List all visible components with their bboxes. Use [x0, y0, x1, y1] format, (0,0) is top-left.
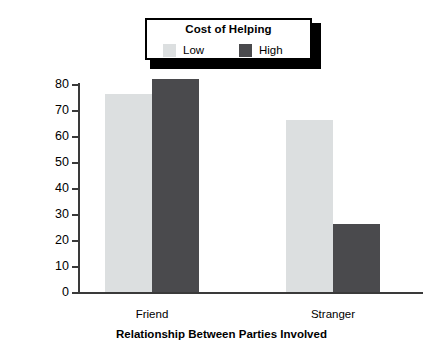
y-axis-line — [78, 83, 80, 293]
y-axis-tick-mark — [72, 110, 78, 112]
y-axis-tick-mark — [72, 136, 78, 138]
legend-swatch-high-icon — [239, 44, 252, 57]
y-axis-tick-mark — [72, 266, 78, 268]
x-axis-line — [78, 292, 423, 294]
legend-title: Cost of Helping — [147, 23, 310, 35]
legend-swatch-low-icon — [163, 44, 176, 57]
x-axis-title: Relationship Between Parties Involved — [0, 328, 443, 340]
bar-friend-high — [152, 79, 199, 292]
legend-entry-high[interactable]: High — [239, 42, 283, 58]
legend-label-low: Low — [183, 44, 204, 56]
legend-label-high: High — [259, 44, 283, 56]
y-axis-tick-mark — [72, 162, 78, 164]
y-axis-tick-label: 20 — [55, 234, 69, 247]
y-axis-tick-label: 30 — [55, 208, 69, 221]
bar-stranger-high — [333, 224, 380, 292]
y-axis-tick-mark — [72, 188, 78, 190]
y-axis-tick-mark — [72, 84, 78, 86]
y-axis-tick-label: 0 — [62, 286, 69, 299]
y-axis-tick-label: 10 — [55, 260, 69, 273]
legend-entry-low[interactable]: Low — [163, 42, 204, 58]
y-axis-tick-label: 70 — [55, 104, 69, 117]
y-axis-tick-label: 50 — [55, 156, 69, 169]
y-axis-tick-mark — [72, 214, 78, 216]
bar-stranger-low — [286, 120, 333, 292]
y-axis-tick-label: 80 — [55, 78, 69, 91]
y-axis-tick-mark — [72, 292, 78, 294]
y-axis-tick-label: 60 — [55, 130, 69, 143]
bar-friend-low — [105, 94, 152, 292]
y-axis-tick-label: 40 — [55, 182, 69, 195]
legend-box: Cost of Helping Low High — [145, 18, 312, 60]
x-axis-label-stranger: Stranger — [286, 308, 380, 320]
chart-legend: Cost of Helping Low High — [145, 18, 321, 69]
x-axis-label-friend: Friend — [105, 308, 199, 320]
y-axis-tick-mark — [72, 240, 78, 242]
plot-area: 80706050403020100 — [78, 84, 423, 292]
